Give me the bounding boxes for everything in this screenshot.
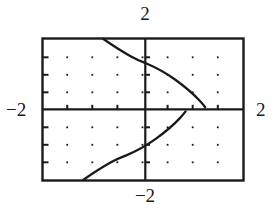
axis-label-bottom: −2 [7,186,276,205]
axis-label-top: 2 [7,4,276,23]
graph-figure: 2 −2 −2 2 [0,0,276,214]
axis-label-right: 2 [256,100,266,119]
curve-upper-branch [103,39,205,107]
axis-label-left: −2 [6,100,26,119]
coordinate-plot [0,0,276,214]
curve-lower-branch [83,111,185,179]
